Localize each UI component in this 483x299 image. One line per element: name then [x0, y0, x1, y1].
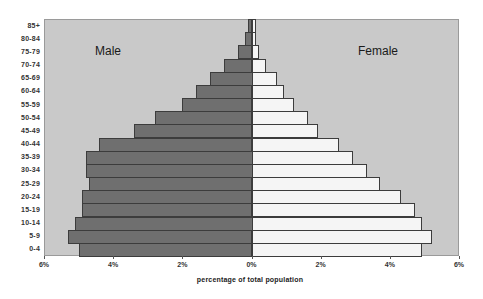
x-tick-label: 4% [98, 261, 128, 268]
y-tick-label: 40-44 [2, 140, 40, 148]
female-bar [252, 151, 353, 165]
female-bar [252, 203, 416, 217]
female-bar [252, 111, 308, 125]
male-bar [238, 45, 253, 59]
x-tick-label: 4% [375, 261, 405, 268]
male-bar [155, 111, 253, 125]
zero-axis-line [252, 19, 253, 256]
male-bar [89, 177, 253, 191]
female-bar [252, 98, 295, 112]
female-bar [252, 164, 367, 178]
female-bar [252, 72, 277, 86]
x-tick-label: 2% [167, 261, 197, 268]
female-bar [252, 230, 433, 244]
y-tick-label: 50-54 [2, 114, 40, 122]
y-tick-label: 75-79 [2, 48, 40, 56]
y-tick-label: 70-74 [2, 61, 40, 69]
female-bar [252, 59, 267, 73]
y-tick-label: 30-34 [2, 166, 40, 174]
x-tick-mark [44, 256, 45, 259]
x-tick-mark [182, 256, 183, 259]
y-tick-label: 25-29 [2, 180, 40, 188]
male-bar [99, 138, 252, 152]
y-tick-label: 80-84 [2, 35, 40, 43]
female-bar [252, 138, 339, 152]
male-series-label: Male [95, 44, 121, 58]
male-bar [75, 217, 252, 231]
male-bar [210, 72, 253, 86]
female-bar [252, 177, 381, 191]
y-tick-label: 5-9 [2, 232, 40, 240]
x-tick-mark [459, 256, 460, 259]
x-tick-mark [252, 256, 253, 259]
male-bar [82, 203, 252, 217]
male-bar [182, 98, 252, 112]
y-tick-label: 35-39 [2, 153, 40, 161]
x-axis-title: percentage of total population [150, 276, 350, 283]
male-bar [196, 85, 252, 99]
y-tick-label: 85+ [2, 22, 40, 30]
x-tick-mark [113, 256, 114, 259]
female-bar [252, 45, 260, 59]
male-bar [86, 164, 253, 178]
population-pyramid-chart: 0-45-910-1415-1920-2425-2930-3435-3940-4… [0, 0, 483, 299]
y-tick-label: 0-4 [2, 245, 40, 253]
male-bar [79, 243, 253, 257]
y-tick-label: 55-59 [2, 101, 40, 109]
male-bar [224, 59, 253, 73]
x-tick-label: 0% [237, 261, 267, 268]
female-series-label: Female [358, 44, 398, 58]
y-tick-label: 20-24 [2, 193, 40, 201]
x-tick-label: 6% [29, 261, 59, 268]
female-bar [252, 190, 402, 204]
x-tick-label: 6% [444, 261, 474, 268]
x-tick-mark [390, 256, 391, 259]
male-bar [86, 151, 253, 165]
male-bar [82, 190, 252, 204]
female-bar [252, 85, 284, 99]
male-bar [68, 230, 252, 244]
x-tick-mark [321, 256, 322, 259]
y-tick-label: 10-14 [2, 219, 40, 227]
male-bar [134, 124, 253, 138]
female-bar [252, 217, 422, 231]
y-tick-label: 65-69 [2, 74, 40, 82]
x-tick-label: 2% [306, 261, 336, 268]
y-tick-label: 60-64 [2, 87, 40, 95]
y-tick-label: 15-19 [2, 206, 40, 214]
y-tick-label: 45-49 [2, 127, 40, 135]
female-bar [252, 124, 319, 138]
female-bar [252, 243, 422, 257]
